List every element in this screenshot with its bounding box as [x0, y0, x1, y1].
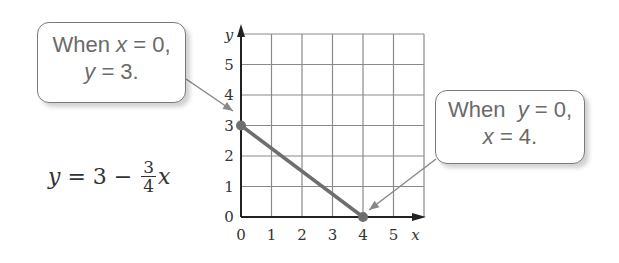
svg-text:4: 4 — [224, 86, 234, 104]
svg-text:5: 5 — [389, 226, 399, 244]
svg-text:3: 3 — [224, 117, 234, 135]
svg-text:0: 0 — [236, 226, 246, 244]
svg-text:2: 2 — [224, 147, 234, 165]
svg-text:1: 1 — [267, 226, 277, 244]
callout-y-zero: When y = 0, x = 4. — [435, 90, 585, 164]
svg-text:0: 0 — [224, 208, 234, 226]
callout-right-line1: When y = 0, — [436, 96, 584, 123]
svg-text:1: 1 — [224, 178, 234, 196]
svg-text:y: y — [224, 26, 234, 44]
callout-left-line2: y = 3. — [38, 58, 185, 85]
svg-text:5: 5 — [224, 56, 234, 74]
callout-x-zero: When x = 0, y = 3. — [37, 22, 186, 103]
svg-text:3: 3 — [328, 226, 338, 244]
svg-text:4: 4 — [358, 226, 368, 244]
svg-text:2: 2 — [297, 226, 307, 244]
fraction: 3 4 — [141, 158, 156, 195]
callout-right-line2: x = 4. — [436, 123, 584, 150]
equation: y = 3 − 3 4 x — [48, 158, 171, 195]
svg-text:x: x — [411, 226, 420, 244]
callout-left-line1: When x = 0, — [38, 31, 185, 58]
